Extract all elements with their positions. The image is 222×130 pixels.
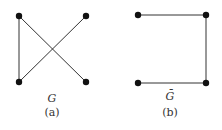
graph-node <box>16 79 22 85</box>
graph-node <box>83 13 89 19</box>
graph-node <box>203 80 209 86</box>
caption-a: (a) <box>32 106 72 119</box>
graph-g-label: G <box>32 92 72 105</box>
graph-node <box>203 12 209 18</box>
graph-node <box>16 13 22 19</box>
graph-complement-label: Ḡ <box>150 90 190 103</box>
graph-node <box>83 79 89 85</box>
graph-node <box>135 12 141 18</box>
graph-node <box>135 80 141 86</box>
caption-b: (b) <box>150 106 190 119</box>
